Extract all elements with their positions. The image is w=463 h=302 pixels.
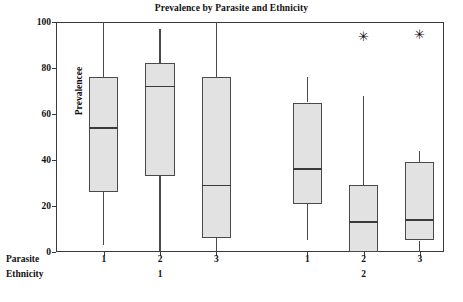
box-plot-figure: Prevalence by Parasite and Ethnicity Pre…	[0, 0, 463, 302]
box-plot-item: ✳	[405, 22, 434, 252]
y-tick-mark	[52, 22, 56, 23]
upper-whisker	[103, 22, 104, 77]
median-line	[405, 219, 434, 221]
parasite-tick-label: 1	[101, 254, 106, 264]
median-line	[202, 185, 231, 187]
y-tick-label: 80	[42, 63, 52, 73]
y-tick-label: 60	[42, 109, 52, 119]
lower-whisker	[419, 241, 420, 253]
y-tick-label: 100	[37, 17, 51, 27]
median-line	[145, 86, 174, 88]
box-iqr	[145, 63, 174, 176]
box-iqr	[349, 185, 378, 252]
parasite-tick-label: 1	[305, 254, 310, 264]
y-tick-mark	[52, 160, 56, 161]
ethnicity-row-header: Ethnicity	[6, 269, 43, 279]
box-iqr	[89, 77, 118, 192]
box-plot-item	[293, 22, 322, 252]
outlier-marker: ✳	[414, 27, 425, 40]
parasite-tick-label: 2	[361, 254, 366, 264]
box-plot-item: ✳	[349, 22, 378, 252]
y-tick-mark	[52, 68, 56, 69]
median-line	[293, 168, 322, 170]
y-tick-mark	[52, 114, 56, 115]
plot-area: Prevalencee 020406080100 ✳✳	[56, 22, 444, 252]
category-axis-labels: Parasite Ethnicity 123123 12	[0, 252, 463, 302]
box-plot-item	[202, 22, 231, 252]
box-iqr	[405, 162, 434, 240]
y-tick-label: 40	[42, 155, 52, 165]
upper-whisker	[307, 77, 308, 102]
box-iqr	[202, 77, 231, 238]
parasite-row-header: Parasite	[6, 254, 39, 264]
upper-whisker	[216, 22, 217, 77]
lower-whisker	[216, 238, 217, 252]
parasite-tick-label: 2	[158, 254, 163, 264]
ethnicity-tick-label: 1	[158, 269, 163, 279]
parasite-tick-label: 3	[214, 254, 219, 264]
median-line	[349, 221, 378, 223]
ethnicity-tick-label: 2	[361, 269, 366, 279]
chart-title: Prevalence by Parasite and Ethnicity	[0, 3, 463, 13]
median-line	[89, 127, 118, 129]
upper-whisker	[159, 29, 160, 64]
y-axis-title: Prevalencee	[74, 36, 84, 146]
parasite-tick-label: 3	[417, 254, 422, 264]
lower-whisker	[307, 204, 308, 241]
y-tick-label: 20	[42, 201, 52, 211]
box-iqr	[293, 103, 322, 204]
upper-whisker	[419, 151, 420, 163]
box-plot-item	[145, 22, 174, 252]
lower-whisker	[159, 176, 160, 252]
outlier-marker: ✳	[358, 29, 369, 42]
upper-whisker	[363, 96, 364, 186]
y-tick-mark	[52, 206, 56, 207]
lower-whisker	[103, 192, 104, 245]
box-plot-item	[89, 22, 118, 252]
